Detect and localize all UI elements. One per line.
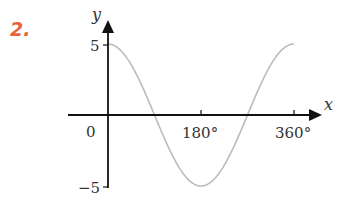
cosine-graph: y x 5 −5 0 180° 360° — [0, 0, 345, 212]
x-axis-arrow-icon — [309, 109, 322, 121]
x-tick-label-180: 180° — [182, 124, 218, 142]
x-tick-label-360: 360° — [275, 124, 311, 142]
y-axis-label: y — [91, 5, 102, 24]
y-tick-label-neg5: −5 — [78, 179, 100, 197]
y-axis-arrow-icon — [102, 20, 114, 33]
origin-label: 0 — [86, 123, 96, 141]
y-tick-label-5: 5 — [90, 37, 100, 55]
x-axis-label: x — [324, 95, 333, 114]
